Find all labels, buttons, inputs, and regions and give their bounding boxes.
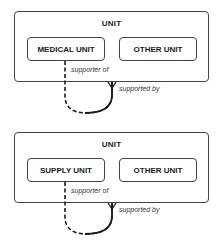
supporter-of-label: supporter of: [71, 66, 108, 73]
crows-foot-icon: [108, 203, 116, 209]
supporter-of-label: supporter of: [71, 187, 108, 194]
relationship-line: [0, 121, 222, 241]
relationship-line: [0, 0, 222, 120]
crows-foot-icon: [108, 82, 116, 88]
supported-by-label: supported by: [119, 206, 159, 213]
diagram-medical-unit: UNIT MEDICAL UNIT OTHER UNIT supporter o…: [0, 0, 222, 120]
diagram-supply-unit: UNIT SUPPLY UNIT OTHER UNIT supporter of…: [0, 121, 222, 241]
supported-by-label: supported by: [119, 85, 159, 92]
